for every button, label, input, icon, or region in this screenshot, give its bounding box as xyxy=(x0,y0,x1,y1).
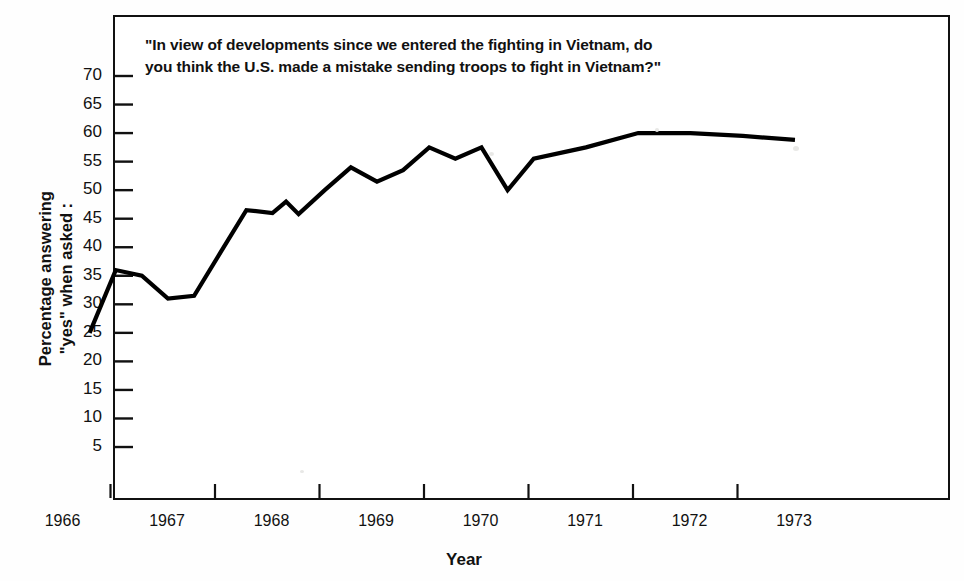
chart-figure: "In view of developments since we entere… xyxy=(0,0,964,581)
chart-canvas xyxy=(0,0,964,581)
paper-speck xyxy=(793,146,799,151)
paper-speck xyxy=(489,152,494,156)
x-tick-marks xyxy=(111,484,738,498)
data-line-series-0 xyxy=(90,133,795,333)
paper-speck xyxy=(300,470,304,473)
paper-speck xyxy=(655,128,659,132)
y-tick-marks xyxy=(115,76,133,447)
